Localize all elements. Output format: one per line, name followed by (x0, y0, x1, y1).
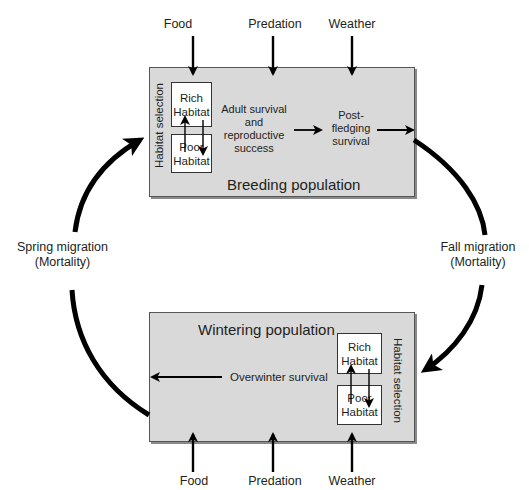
adult-survival-line2: and (245, 116, 263, 128)
poor-line1: Poor (179, 141, 203, 153)
breeding-rich-habitat-box: RichHabitat (171, 82, 212, 127)
breeding-population-title: Breeding population (227, 176, 360, 194)
breeding-habitat-selection-label: Habitat selection (153, 83, 165, 168)
top-factor-weather: Weather (322, 17, 382, 32)
bottom-factor-weather: Weather (322, 474, 382, 489)
wintering-poor-habitat-box: PoorHabitat (337, 385, 382, 425)
fall-migration-label: Fall migration (Mortality) (433, 240, 523, 270)
breeding-poor-habitat-box: PoorHabitat (171, 134, 212, 173)
wintering-habitat-selection-label: Habitat selection (392, 338, 404, 423)
overwinter-survival-text: Overwinter survival (230, 371, 328, 384)
adult-survival-line3: reproductive (224, 129, 285, 141)
top-factor-predation: Predation (240, 17, 310, 32)
post-fledging-line2: fledging (332, 122, 371, 134)
w-rich-line2: Habitat (341, 355, 377, 367)
post-fledging-line1: Post- (338, 109, 364, 121)
rich-line1: Rich (180, 92, 203, 104)
rich-line2: Habitat (173, 106, 209, 118)
bottom-factor-food: Food (174, 474, 214, 489)
bottom-factor-predation: Predation (240, 474, 310, 489)
spring-migration-label: Spring migration (Mortality) (10, 240, 115, 270)
spring-migration-line1: Spring migration (17, 240, 108, 254)
post-fledging-text: Post- fledging survival (326, 109, 376, 148)
top-factor-food: Food (158, 17, 198, 32)
adult-survival-text: Adult survival and reproductive success (216, 103, 292, 155)
adult-survival-line4: success (234, 142, 274, 154)
wintering-rich-habitat-box: RichHabitat (337, 333, 382, 374)
poor-line2: Habitat (173, 155, 209, 167)
w-poor-line1: Poor (347, 392, 371, 404)
spring-migration-arrow (72, 290, 149, 415)
w-rich-line1: Rich (348, 341, 371, 353)
fall-migration-line1: Fall migration (440, 240, 515, 254)
fall-migration-arrow (414, 140, 485, 235)
wintering-population-title: Wintering population (198, 321, 335, 339)
post-fledging-line3: survival (332, 135, 369, 147)
w-poor-line2: Habitat (341, 406, 377, 418)
spring-migration-line2: (Mortality) (35, 255, 91, 269)
adult-survival-line1: Adult survival (221, 103, 286, 115)
fall-migration-line2: (Mortality) (450, 255, 506, 269)
